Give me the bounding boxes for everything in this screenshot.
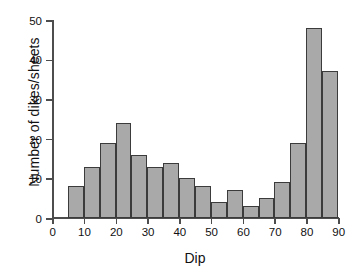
x-axis-tick: 60: [243, 218, 245, 224]
histogram-figure: Number of dikes/sheets Dip 01020304050 0…: [0, 0, 355, 276]
histogram-bar: [274, 182, 290, 218]
x-axis-tick-label: 40: [173, 226, 186, 238]
x-axis-tick-label: 70: [269, 226, 282, 238]
x-axis-tick: 80: [306, 218, 308, 224]
x-axis-tick-label: 50: [205, 226, 218, 238]
x-axis-tick: 0: [52, 218, 54, 224]
x-axis-tick: 20: [116, 218, 118, 224]
histogram-bar: [211, 202, 227, 218]
y-axis-tick-label: 40: [29, 54, 42, 66]
x-axis-tick-label: 90: [332, 226, 345, 238]
histogram-bar: [179, 178, 195, 218]
histogram-bar: [243, 206, 259, 218]
histogram-bar: [131, 155, 147, 218]
x-axis-tick: 40: [179, 218, 181, 224]
x-axis-tick-label: 10: [78, 226, 91, 238]
histogram-bar: [322, 71, 338, 218]
x-axis-tick-label: 20: [110, 226, 123, 238]
y-axis-tick-label: 10: [29, 173, 42, 185]
x-axis-tick-label: 60: [237, 226, 250, 238]
x-axis-tick: 70: [274, 218, 276, 224]
y-axis-tick: 20: [46, 139, 52, 141]
y-axis-tick-label: 20: [29, 134, 42, 146]
histogram-bar: [259, 198, 275, 218]
histogram-bar: [163, 163, 179, 218]
x-axis-tick-label: 0: [50, 226, 56, 238]
y-axis-tick: 50: [46, 20, 52, 22]
x-axis-tick: 50: [211, 218, 213, 224]
histogram-bar: [68, 186, 84, 218]
histogram-bar: [100, 143, 116, 218]
histogram-bar: [84, 167, 100, 218]
x-axis-tick-label: 30: [142, 226, 155, 238]
x-axis-tick: 10: [84, 218, 86, 224]
plot-area: 01020304050 0102030405060708090: [52, 20, 338, 218]
y-axis-tick: 30: [46, 99, 52, 101]
bar-series: [52, 20, 338, 218]
x-axis-tick: 90: [338, 218, 340, 224]
y-axis-tick-label: 0: [36, 213, 42, 225]
histogram-bar: [306, 28, 322, 218]
y-axis-tick: 40: [46, 60, 52, 62]
histogram-bar: [290, 143, 306, 218]
y-axis-tick-label: 30: [29, 94, 42, 106]
histogram-bar: [195, 186, 211, 218]
histogram-bar: [227, 190, 243, 218]
y-axis-tick: 10: [46, 178, 52, 180]
y-axis-tick-label: 50: [29, 15, 42, 27]
x-axis-tick: 30: [147, 218, 149, 224]
histogram-bar: [147, 167, 163, 218]
x-axis-title: Dip: [52, 250, 338, 266]
x-axis-tick-label: 80: [301, 226, 314, 238]
histogram-bar: [116, 123, 132, 218]
